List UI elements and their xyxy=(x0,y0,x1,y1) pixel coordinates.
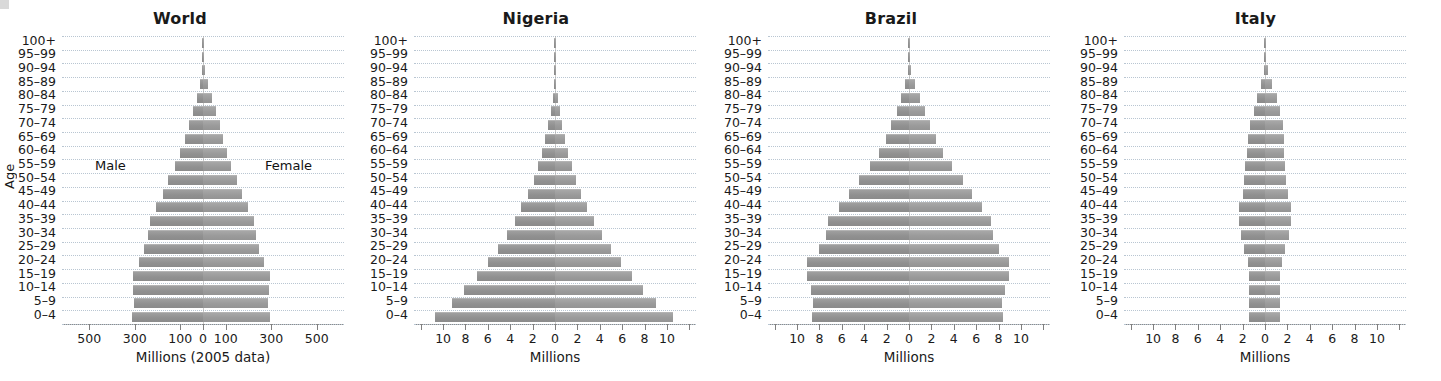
x-tick-label: 0 xyxy=(199,331,207,346)
age-tick-label: 5–9 xyxy=(1070,294,1118,307)
x-tick xyxy=(533,324,534,330)
x-tick-label: 8 xyxy=(1351,331,1359,346)
bar-female xyxy=(555,93,558,103)
bar-female xyxy=(1265,189,1288,199)
age-tick-label: 15–19 xyxy=(1070,267,1118,280)
bar-female xyxy=(555,175,576,185)
age-tick-label: 55–59 xyxy=(8,157,56,170)
bar-female xyxy=(203,134,223,144)
bar-male xyxy=(1243,189,1265,199)
x-tick-label: 300 xyxy=(259,331,283,346)
bar-male xyxy=(1249,298,1265,308)
bar-female xyxy=(203,189,242,199)
age-tick-label: 25–29 xyxy=(360,239,408,252)
bar-female xyxy=(203,93,212,103)
x-tick xyxy=(797,324,798,330)
bar-male xyxy=(548,120,555,130)
bar-male xyxy=(826,230,909,240)
x-tick xyxy=(510,324,511,330)
x-tick xyxy=(1332,324,1333,330)
bar-female xyxy=(1265,216,1291,226)
bar-female xyxy=(555,285,643,295)
age-tick-label: 10–14 xyxy=(714,280,762,293)
x-tick-label: 6 xyxy=(972,331,980,346)
bar-female xyxy=(203,120,220,130)
bar-male xyxy=(897,106,909,116)
age-tick-label: 30–34 xyxy=(8,226,56,239)
age-tick-label: 60–64 xyxy=(714,143,762,156)
x-tick-label: 2 xyxy=(1239,331,1247,346)
bar-male xyxy=(180,148,203,158)
age-tick-label: 75–79 xyxy=(8,102,56,115)
x-tick-minor xyxy=(1399,324,1400,330)
bar-male xyxy=(139,257,203,267)
age-tick-label: 85–89 xyxy=(8,75,56,88)
age-tick-label: 65–69 xyxy=(1070,130,1118,143)
bar-male xyxy=(870,161,909,171)
female-annotation: Female xyxy=(265,158,312,173)
bar-female xyxy=(203,312,270,322)
bar-female xyxy=(555,134,565,144)
x-tick xyxy=(864,324,865,330)
x-tick-label: 4 xyxy=(1216,331,1224,346)
bar-female xyxy=(203,52,204,62)
plot-area: MaleFemale xyxy=(62,36,344,325)
bar-male xyxy=(839,202,910,212)
age-tick-label: 35–39 xyxy=(1070,212,1118,225)
bar-female xyxy=(909,175,963,185)
panel-brazil: Brazil100+95–9990–9485–8980–8475–7970–74… xyxy=(712,0,1070,381)
age-tick-label: 90–94 xyxy=(714,61,762,74)
age-tick-label: 95–99 xyxy=(8,47,56,60)
plot-area xyxy=(1124,36,1406,325)
age-tick-label: 15–19 xyxy=(714,267,762,280)
bar-male xyxy=(1247,148,1265,158)
bar-female xyxy=(1265,230,1289,240)
x-tick xyxy=(667,324,668,330)
age-tick-label: 50–54 xyxy=(1070,171,1118,184)
x-tick xyxy=(577,324,578,330)
bar-female xyxy=(909,189,972,199)
plot-area xyxy=(414,36,696,325)
corner-marker xyxy=(0,0,9,9)
age-tick-label: 10–14 xyxy=(1070,280,1118,293)
bar-female xyxy=(555,230,602,240)
x-tick-label: 6 xyxy=(484,331,492,346)
age-tick-label: 60–64 xyxy=(1070,143,1118,156)
bar-male xyxy=(538,161,555,171)
x-tick-label: 8 xyxy=(995,331,1003,346)
bar-male xyxy=(807,271,909,281)
age-tick-label: 30–34 xyxy=(714,226,762,239)
x-tick-label: 4 xyxy=(506,331,514,346)
x-tick-label: 8 xyxy=(1171,331,1179,346)
age-tick-label: 90–94 xyxy=(1070,61,1118,74)
x-tick xyxy=(555,324,556,330)
age-tick-label: 15–19 xyxy=(8,267,56,280)
x-tick xyxy=(1377,324,1378,330)
bar-female xyxy=(909,93,920,103)
age-tick-label: 65–69 xyxy=(8,130,56,143)
bar-female xyxy=(555,148,568,158)
bar-male xyxy=(1249,312,1265,322)
age-tick-label: 35–39 xyxy=(360,212,408,225)
bar-female xyxy=(1265,38,1266,48)
age-tick-label: 80–84 xyxy=(8,88,56,101)
bar-female xyxy=(909,230,993,240)
bar-male xyxy=(812,312,909,322)
bar-male xyxy=(545,134,555,144)
bar-female xyxy=(909,161,952,171)
x-tick xyxy=(488,324,489,330)
x-tick xyxy=(135,324,136,330)
bar-female xyxy=(909,148,943,158)
age-tick-label: 85–89 xyxy=(360,75,408,88)
bar-female xyxy=(203,148,227,158)
x-tick-label: 4 xyxy=(596,331,604,346)
bar-female xyxy=(203,285,269,295)
bar-male xyxy=(849,189,909,199)
panel-title: World xyxy=(0,9,360,28)
bar-female xyxy=(555,298,656,308)
x-tick-label: 2 xyxy=(927,331,935,346)
bar-male xyxy=(507,230,555,240)
x-tick xyxy=(180,324,181,330)
bar-female xyxy=(555,52,556,62)
age-tick-label: 25–29 xyxy=(1070,239,1118,252)
